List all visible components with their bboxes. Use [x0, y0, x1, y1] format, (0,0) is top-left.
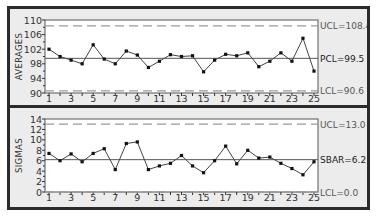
sbar-label: SBAR=6.2	[320, 155, 366, 165]
data-point	[202, 171, 205, 174]
x-tick-label: 11	[153, 93, 165, 104]
y-tick-label: 2	[36, 176, 42, 187]
x-tick-label: 1	[46, 192, 52, 203]
data-point	[47, 48, 50, 51]
data-point	[268, 60, 271, 63]
y-axis-label: SIGMAS	[14, 138, 24, 173]
data-point	[257, 65, 260, 68]
data-point	[69, 59, 72, 62]
data-point	[268, 155, 271, 158]
y-tick-label: 90	[30, 88, 42, 99]
y-tick-label: 110	[24, 15, 42, 26]
pcl-label: PCL=99.5	[320, 54, 364, 64]
y-tick-label: 0	[36, 187, 42, 198]
x-tick-label: 5	[90, 192, 96, 203]
x-tick-label: 11	[153, 192, 165, 203]
y-tick-label: 6	[36, 155, 42, 166]
data-point	[103, 147, 106, 150]
data-point	[191, 164, 194, 167]
y-tick-label: 94	[30, 73, 42, 84]
x-tick-label: 13	[175, 192, 187, 203]
x-tick-label: 15	[198, 192, 210, 203]
x-tick-label: 21	[264, 192, 276, 203]
x-tick-label: 17	[220, 93, 232, 104]
x-tick-label: 3	[68, 93, 74, 104]
y-tick-label: 102	[24, 44, 42, 55]
data-point	[235, 54, 238, 57]
data-point	[81, 160, 84, 163]
data-point	[180, 154, 183, 157]
ucl-label: UCL=13.0	[320, 120, 366, 130]
x-tick-label: 25	[308, 93, 320, 104]
data-point	[136, 140, 139, 143]
data-point	[125, 142, 128, 145]
data-point	[81, 62, 84, 65]
lcl-label: LCL=90.6	[320, 86, 364, 96]
sigmas-chart-panel: SIGMAS02468101214135791113151719212325UC…	[10, 108, 367, 207]
data-point	[257, 157, 260, 160]
data-point	[158, 164, 161, 167]
x-tick-label: 9	[134, 93, 140, 104]
data-point	[246, 149, 249, 152]
y-tick-label: 10	[30, 134, 42, 145]
data-point	[58, 159, 61, 162]
data-point	[279, 51, 282, 54]
x-tick-label: 7	[112, 192, 118, 203]
data-point	[279, 162, 282, 165]
y-tick-label: 8	[36, 145, 42, 156]
x-tick-label: 23	[286, 93, 298, 104]
x-tick-label: 1	[46, 93, 52, 104]
data-point	[69, 152, 72, 155]
x-tick-label: 21	[264, 93, 276, 104]
data-point	[58, 55, 61, 58]
data-point	[158, 60, 161, 63]
data-point	[147, 66, 150, 69]
data-point	[224, 145, 227, 148]
data-point	[169, 53, 172, 56]
y-axis-label: AVERAGES	[14, 33, 24, 80]
data-point	[125, 49, 128, 52]
x-tick-label: 7	[112, 93, 118, 104]
data-point	[114, 168, 117, 171]
x-tick-label: 3	[68, 192, 74, 203]
y-tick-label: 98	[30, 58, 42, 69]
data-point	[213, 59, 216, 62]
data-point	[114, 62, 117, 65]
data-point	[301, 37, 304, 40]
data-point	[290, 60, 293, 63]
data-point	[235, 162, 238, 165]
x-tick-label: 19	[242, 93, 254, 104]
data-point	[191, 54, 194, 57]
data-point	[246, 51, 249, 54]
control-chart-window: AVERAGES90949810210611013579111315171921…	[7, 6, 370, 210]
y-tick-label: 106	[24, 29, 42, 40]
y-tick-label: 14	[30, 114, 42, 125]
data-point	[312, 160, 315, 163]
data-point	[224, 53, 227, 56]
x-tick-label: 17	[220, 192, 232, 203]
averages-chart: AVERAGES90949810210611013579111315171921…	[10, 9, 367, 105]
data-point	[47, 152, 50, 155]
ucl-label: UCL=108.4	[320, 21, 367, 31]
averages-chart-panel: AVERAGES90949810210611013579111315171921…	[10, 9, 367, 108]
data-point	[92, 152, 95, 155]
data-point	[147, 168, 150, 171]
x-tick-label: 15	[198, 93, 210, 104]
lcl-label: LCL=0.0	[320, 188, 358, 198]
sigmas-chart: SIGMAS02468101214135791113151719212325UC…	[10, 108, 367, 207]
data-point	[92, 43, 95, 46]
x-tick-label: 5	[90, 93, 96, 104]
data-point	[103, 57, 106, 60]
x-tick-label: 13	[175, 93, 187, 104]
data-point	[180, 55, 183, 58]
data-point	[290, 167, 293, 170]
x-tick-label: 9	[134, 192, 140, 203]
y-tick-label: 4	[36, 166, 42, 177]
x-tick-label: 25	[308, 192, 320, 203]
data-point	[213, 159, 216, 162]
x-tick-label: 23	[286, 192, 298, 203]
data-point	[202, 70, 205, 73]
x-tick-label: 19	[242, 192, 254, 203]
y-tick-label: 12	[30, 124, 42, 135]
data-point	[301, 173, 304, 176]
